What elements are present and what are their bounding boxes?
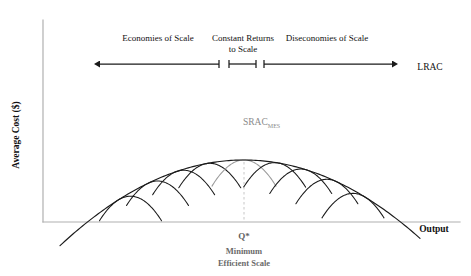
srac-curve <box>179 163 241 188</box>
mes-caption-line1: Minimum <box>226 246 262 256</box>
lrac-diagram: Average Cost ($) Output Economies of Sca… <box>0 0 471 276</box>
region-label-economies-of-scale: Economies of Scale <box>122 33 193 43</box>
srac-mes-label: SRACMES <box>243 117 280 129</box>
region-label-diseconomies-of-scale: Diseconomies of Scale <box>286 33 368 43</box>
srac-curve <box>153 170 215 195</box>
y-axis-label: Average Cost ($) <box>11 101 22 168</box>
x-axis-label: Output <box>419 224 449 234</box>
srac-curve <box>270 169 332 194</box>
scale-regions-arrow <box>100 60 392 68</box>
region-label-constant-returns-line2: to Scale <box>229 44 258 54</box>
srac-curve <box>296 179 358 204</box>
srac-label-text: SRAC <box>243 117 268 127</box>
srac-label-subscript: MES <box>268 123 280 129</box>
mes-caption-line2: Efficient Scale <box>218 258 270 268</box>
region-label-constant-returns-line1: Constant Returns <box>212 33 275 43</box>
chart-canvas: Average Cost ($) Output Economies of Sca… <box>0 0 471 276</box>
srac-curves-group <box>100 160 384 221</box>
srac-curve <box>127 181 189 206</box>
q-star-label: Q* <box>238 231 250 241</box>
lrac-label: LRAC <box>417 62 442 72</box>
